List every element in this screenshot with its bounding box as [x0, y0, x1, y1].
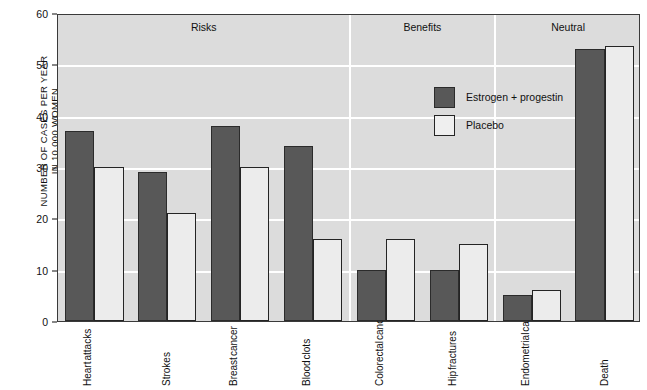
bar	[357, 270, 386, 321]
bar	[211, 126, 240, 321]
section-divider	[349, 15, 351, 321]
bar	[459, 244, 488, 321]
legend-label: Estrogen + progestin	[466, 91, 563, 103]
x-axis-labels: HeartattacksStrokesBreastcancerBloodclot…	[57, 324, 640, 390]
section-title: Risks	[191, 21, 217, 33]
bar	[313, 239, 342, 321]
x-tick-label-line2: attacks	[82, 329, 94, 361]
bar	[65, 131, 94, 321]
y-tick-label: 30	[36, 162, 48, 174]
x-tick-label-line2: clots	[301, 339, 313, 360]
section-divider	[494, 15, 496, 321]
plot-area: RisksBenefitsNeutral Estrogen + progesti…	[57, 14, 640, 322]
x-tick-label-line1: Hip	[447, 371, 459, 386]
x-tick-label-line1: Blood	[301, 360, 313, 386]
bar	[240, 167, 269, 321]
y-axis-ticks: 0102030405060	[0, 0, 57, 330]
y-tick-label: 20	[36, 213, 48, 225]
legend-item: Placebo	[434, 111, 563, 139]
section-title: Neutral	[551, 21, 585, 33]
x-tick-label-line1: Strokes	[161, 352, 173, 386]
x-tick-label-line1: Breast	[228, 357, 240, 386]
legend: Estrogen + progestinPlacebo	[434, 83, 563, 139]
figure-caption	[0, 386, 647, 390]
bar	[532, 290, 561, 321]
x-tick-label: Colorectalcancer	[374, 310, 386, 386]
y-tick-label: 10	[36, 265, 48, 277]
x-tick-label: Hipfractures	[447, 331, 459, 386]
x-tick-label-line2: cancer	[228, 326, 240, 356]
y-tick-label: 0	[42, 316, 48, 328]
legend-item: Estrogen + progestin	[434, 83, 563, 111]
legend-swatch	[434, 115, 455, 136]
x-tick-label-line1: Death	[599, 359, 611, 386]
x-tick-label: Heartattacks	[82, 329, 94, 386]
x-tick-label-line1: Endometrial	[520, 333, 532, 386]
legend-label: Placebo	[466, 119, 504, 131]
section-title: Benefits	[403, 21, 441, 33]
bar	[503, 295, 532, 321]
bar	[605, 46, 634, 321]
x-tick-label-line2: fractures	[447, 331, 459, 370]
x-tick-label-line1: Colorectal	[374, 341, 386, 386]
x-tick-label: Breastcancer	[228, 326, 240, 386]
bar	[284, 146, 313, 321]
bar	[575, 49, 604, 321]
bar	[138, 172, 167, 321]
y-tick-label: 40	[36, 111, 48, 123]
bar-chart-figure: NUMBER OF CASES PER YEAR IN 10,000 WOMEN…	[0, 0, 647, 390]
x-tick-label: Strokes	[161, 352, 173, 386]
x-tick-label-line1: Heart	[82, 362, 94, 386]
x-tick-label: Death	[599, 359, 611, 386]
bar	[167, 213, 196, 321]
bar	[94, 167, 123, 321]
bar	[430, 270, 459, 321]
x-tick-label: Bloodclots	[301, 339, 313, 386]
bar	[386, 239, 415, 321]
y-tick-label: 60	[36, 8, 48, 20]
legend-swatch	[434, 87, 455, 108]
y-tick-label: 50	[36, 59, 48, 71]
